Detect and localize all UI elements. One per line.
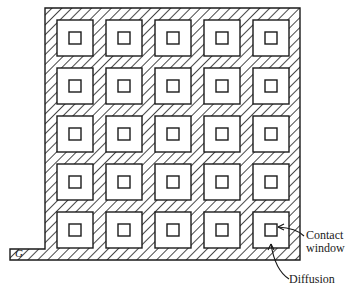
- contact-window-square: [118, 224, 130, 236]
- contact-window-square: [167, 176, 179, 188]
- cell-grid: [57, 20, 289, 248]
- contact-window-square: [118, 80, 130, 92]
- contact-window-square: [265, 32, 277, 44]
- layout-diagram: [0, 0, 354, 293]
- contact-window-square: [265, 80, 277, 92]
- contact-window-square: [69, 176, 81, 188]
- contact-window-square: [69, 224, 81, 236]
- contact-window-square: [265, 176, 277, 188]
- contact-window-square: [167, 128, 179, 140]
- contact-window-square: [167, 224, 179, 236]
- contact-label-line2: window: [306, 242, 345, 255]
- contact-window-square: [216, 32, 228, 44]
- contact-window-square: [167, 80, 179, 92]
- contact-window-square: [265, 224, 277, 236]
- contact-window-label: Contact window: [306, 229, 345, 255]
- contact-window-square: [69, 128, 81, 140]
- diffusion-label: Diffusion: [289, 273, 335, 286]
- contact-window-square: [118, 128, 130, 140]
- contact-window-square: [265, 128, 277, 140]
- contact-window-square: [69, 32, 81, 44]
- contact-window-square: [118, 176, 130, 188]
- contact-window-square: [216, 80, 228, 92]
- contact-window-square: [69, 80, 81, 92]
- contact-window-square: [216, 224, 228, 236]
- contact-window-square: [216, 128, 228, 140]
- contact-window-square: [118, 32, 130, 44]
- contact-window-square: [167, 32, 179, 44]
- gate-label: G: [15, 247, 23, 259]
- contact-window-square: [216, 176, 228, 188]
